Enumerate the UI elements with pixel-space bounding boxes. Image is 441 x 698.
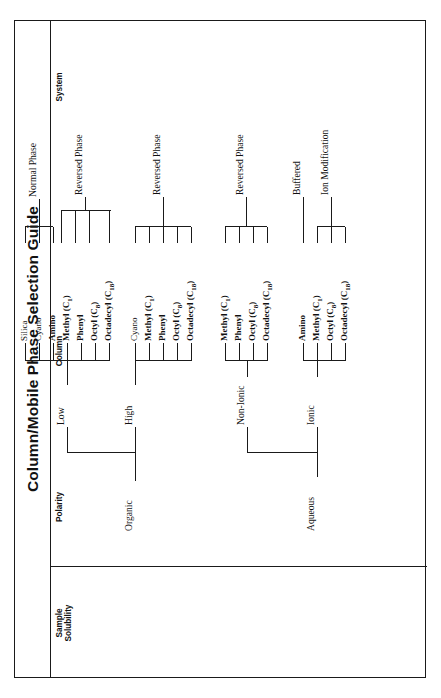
subscript-8: 8 bbox=[94, 305, 102, 309]
paren-close: ) bbox=[89, 302, 99, 305]
title-cell: Column/Mobile Phase Selection Guide bbox=[15, 21, 51, 677]
column-label-methyl-text: Methyl (C bbox=[61, 302, 71, 341]
subscript-1: 1 bbox=[148, 298, 156, 302]
sys3-stem bbox=[246, 197, 247, 227]
t: Octadecyl (C bbox=[185, 291, 195, 341]
paren-close: ) bbox=[247, 302, 257, 305]
system-reversed-phase-3: Reversed Phase bbox=[234, 135, 245, 195]
paren-close: ) bbox=[325, 302, 335, 305]
subscript-1: 1 bbox=[66, 298, 74, 302]
column-label-octyl-c8-3: Octyl (C8) bbox=[247, 302, 261, 341]
comb2-t3 bbox=[163, 343, 164, 361]
sys3-t4 bbox=[267, 227, 268, 243]
comb4-t1 bbox=[303, 343, 304, 361]
sys1-a-t1 bbox=[25, 227, 26, 243]
paren-close: ) bbox=[61, 295, 71, 298]
t: Octyl (C bbox=[247, 308, 257, 341]
t: Octyl (C bbox=[171, 308, 181, 341]
paren-close: ) bbox=[339, 281, 349, 284]
subscript-8: 8 bbox=[176, 305, 184, 309]
comb3-spine bbox=[225, 360, 267, 361]
sys1-b-t6 bbox=[89, 211, 90, 243]
sys1-a-t2 bbox=[39, 227, 40, 243]
comb1-t1 bbox=[25, 343, 26, 361]
edge-nonionic-stem bbox=[247, 361, 248, 377]
page-title: Column/Mobile Phase Selection Guide bbox=[15, 21, 51, 677]
header-sample-solubility: Sample Solubility bbox=[55, 587, 73, 659]
edge-ionic-stem bbox=[317, 361, 318, 377]
figure-page: Column/Mobile Phase Selection Guide Samp… bbox=[0, 0, 441, 698]
comb1-t4 bbox=[67, 343, 68, 361]
column-label-phenyl-3: Phenyl bbox=[233, 314, 243, 341]
sys1-b-t7 bbox=[109, 211, 110, 243]
comb1-t7 bbox=[109, 343, 110, 361]
subscript-8: 8 bbox=[330, 305, 338, 309]
rotated-figure: Column/Mobile Phase Selection Guide Samp… bbox=[0, 0, 441, 698]
subscript-1: 1 bbox=[224, 298, 232, 302]
sys1-a-t3 bbox=[53, 227, 54, 243]
edge-organic-to-low bbox=[67, 427, 68, 453]
t: Octadecyl (C bbox=[339, 291, 349, 341]
column-label-octyl-text: Octyl (C bbox=[89, 308, 99, 341]
subscript-18: 18 bbox=[344, 284, 352, 291]
node-aqueous: Aqueous bbox=[305, 497, 316, 531]
system-reversed-phase-2: Reversed Phase bbox=[151, 135, 162, 195]
node-organic: Organic bbox=[123, 500, 134, 531]
sys2-t2 bbox=[149, 227, 150, 243]
sys1-b-t4 bbox=[61, 211, 62, 243]
column-label-methyl-c1: Methyl (C1) bbox=[61, 295, 75, 341]
sys4-stem bbox=[331, 197, 332, 227]
paren-close: ) bbox=[185, 281, 195, 284]
edge-organic-to-high bbox=[135, 427, 136, 453]
t: Methyl (C bbox=[219, 302, 229, 341]
comb1-t5 bbox=[81, 343, 82, 361]
sys2-t1 bbox=[135, 227, 136, 243]
comb3-t2 bbox=[239, 343, 240, 361]
t: Octyl (C bbox=[325, 308, 335, 341]
edge-low-stem bbox=[67, 361, 68, 385]
node-ionic: Ionic bbox=[305, 405, 316, 425]
paren-close: ) bbox=[171, 302, 181, 305]
column-label-octadecyl-c18-2: Octadecyl (C18) bbox=[185, 281, 199, 341]
comb1-t2 bbox=[39, 343, 40, 361]
comb1-t3 bbox=[53, 343, 54, 361]
comb4-spine bbox=[303, 360, 345, 361]
sys3-t1 bbox=[225, 227, 226, 243]
system-buffered: Buffered bbox=[291, 161, 302, 195]
edge-high-stem bbox=[135, 361, 136, 385]
system-ion-modification: Ion Modification bbox=[319, 130, 330, 195]
system-normal-phase: Normal Phase bbox=[27, 143, 38, 197]
sys1-b-stem bbox=[85, 197, 86, 211]
column-label-octyl-c8-4: Octyl (C8) bbox=[325, 302, 339, 341]
column-label-methyl-c1-4: Methyl (C1) bbox=[311, 295, 325, 341]
paren-close: ) bbox=[311, 295, 321, 298]
t: Methyl (C bbox=[143, 302, 153, 341]
paren-close: ) bbox=[143, 295, 153, 298]
sys2-stem bbox=[163, 197, 164, 227]
comb2-t1 bbox=[135, 343, 136, 361]
column-label-octadecyl-c18: Octadecyl (C18) bbox=[103, 281, 117, 341]
column-label-octadecyl-c18-4: Octadecyl (C18) bbox=[339, 281, 353, 341]
column-label-methyl-c1-3: Methyl (C1) bbox=[219, 295, 233, 341]
paren-close: ) bbox=[103, 281, 113, 284]
node-high: High bbox=[123, 406, 134, 425]
subscript-8: 8 bbox=[252, 305, 260, 309]
comb2-t4 bbox=[177, 343, 178, 361]
figure-frame: Column/Mobile Phase Selection Guide Samp… bbox=[14, 20, 426, 678]
comb4-t3 bbox=[331, 343, 332, 361]
subscript-18: 18 bbox=[108, 284, 116, 291]
comb3-t3 bbox=[253, 343, 254, 361]
paren-close: ) bbox=[261, 281, 271, 284]
edge-organic-fork bbox=[67, 452, 135, 453]
column-label-amino-4: Amino bbox=[297, 315, 307, 341]
edge-aqueous-to-nonionic bbox=[247, 427, 248, 453]
column-label-silica: Silica bbox=[19, 321, 29, 342]
node-nonionic: Non-Ionic bbox=[235, 386, 246, 425]
column-label-methyl-c1-2: Methyl (C1) bbox=[143, 295, 157, 341]
paren-close: ) bbox=[219, 295, 229, 298]
system-reversed-phase-1: Reversed Phase bbox=[73, 135, 84, 195]
edge-aqueous-fork bbox=[247, 452, 317, 453]
column-label-octadecyl-c18-3: Octadecyl (C18) bbox=[261, 281, 275, 341]
comb3-t4 bbox=[267, 343, 268, 361]
sys2-t3 bbox=[163, 227, 164, 243]
